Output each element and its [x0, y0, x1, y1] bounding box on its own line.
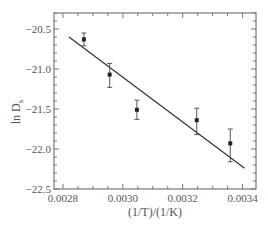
- x-axis-ticks: 0.00280.00300.00320.0034: [48, 13, 258, 204]
- chart: 0.00280.00300.00320.0034 −20.5−21.0−21.5…: [0, 0, 268, 234]
- x-tick-label: 0.0030: [108, 192, 139, 204]
- fit-line: [69, 37, 245, 168]
- y-axis-ticks: −20.5−21.0−21.5−22.0−22.5: [26, 13, 256, 195]
- square-marker: [195, 118, 199, 122]
- y-axis-label: ln Ds: [9, 99, 25, 124]
- y-tick-label: −20.5: [26, 23, 52, 35]
- y-tick-label: −21.5: [26, 103, 52, 115]
- square-marker: [108, 73, 112, 77]
- y-tick-label: −21.0: [26, 63, 52, 75]
- y-axis-label-subscript: s: [15, 99, 25, 103]
- regression-line: [69, 37, 245, 168]
- x-tick-label: 0.0028: [48, 192, 79, 204]
- square-marker: [135, 108, 139, 112]
- x-tick-label: 0.0034: [227, 192, 258, 204]
- x-axis-label: (1/T)/(1/K): [128, 205, 182, 219]
- data-point: [134, 100, 139, 119]
- y-tick-label: −22.0: [26, 143, 52, 155]
- data-point: [81, 33, 86, 46]
- y-tick-label: −22.5: [26, 183, 52, 195]
- data-point: [107, 63, 112, 87]
- square-marker: [82, 37, 86, 41]
- x-tick-label: 0.0032: [168, 192, 198, 204]
- square-marker: [228, 141, 232, 145]
